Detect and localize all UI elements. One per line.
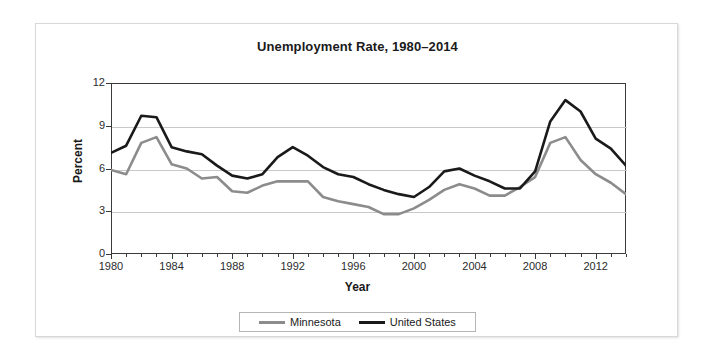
x-tick-mark [444, 254, 445, 257]
x-tick-mark [202, 254, 203, 257]
x-tick-mark [611, 254, 612, 257]
x-tick-mark [353, 254, 354, 259]
x-tick-mark [278, 254, 279, 257]
x-tick-mark [596, 254, 597, 259]
x-tick-mark [293, 254, 294, 259]
legend-item[interactable]: United States [359, 316, 456, 328]
x-tick-label: 2004 [455, 260, 495, 272]
legend-label: Minnesota [290, 316, 341, 328]
x-tick-mark [126, 254, 127, 257]
x-tick-label: 1996 [333, 260, 373, 272]
chart-title: Unemployment Rate, 1980–2014 [36, 39, 679, 54]
x-tick-mark [414, 254, 415, 259]
x-tick-mark [111, 254, 112, 259]
legend-swatch-icon [259, 321, 285, 324]
x-tick-mark [550, 254, 551, 257]
x-tick-mark [384, 254, 385, 257]
y-tick-label: 12 [79, 76, 105, 88]
legend-swatch-icon [359, 321, 385, 324]
x-tick-mark [217, 254, 218, 257]
y-axis-title: Percent [71, 111, 85, 211]
x-axis-title: Year [36, 280, 679, 294]
x-tick-mark [308, 254, 309, 257]
x-tick-mark [262, 254, 263, 257]
plot-wrapper [111, 83, 626, 254]
x-tick-mark [399, 254, 400, 257]
x-tick-mark [369, 254, 370, 257]
x-tick-mark [475, 254, 476, 259]
x-axis-ticks: 198019841988199219962000200420082012 [111, 254, 626, 276]
series-lines [111, 83, 626, 254]
x-tick-label: 1992 [273, 260, 313, 272]
x-tick-mark [323, 254, 324, 257]
x-tick-mark [187, 254, 188, 257]
chart-figure: Unemployment Rate, 1980–2014 036912 Perc… [35, 23, 678, 337]
legend-item[interactable]: Minnesota [259, 316, 341, 328]
x-tick-mark [247, 254, 248, 257]
x-tick-label: 1980 [91, 260, 131, 272]
x-tick-mark [459, 254, 460, 257]
x-tick-mark [429, 254, 430, 257]
series-line [111, 137, 626, 214]
x-tick-label: 2008 [515, 260, 555, 272]
x-tick-mark [490, 254, 491, 257]
x-tick-label: 2000 [394, 260, 434, 272]
x-tick-mark [581, 254, 582, 257]
chart-legend: MinnesotaUnited States [239, 312, 476, 332]
legend-label: United States [390, 316, 456, 328]
x-tick-mark [141, 254, 142, 257]
x-tick-mark [172, 254, 173, 259]
x-tick-label: 2012 [576, 260, 616, 272]
x-tick-mark [626, 254, 627, 257]
x-tick-label: 1988 [212, 260, 252, 272]
x-tick-mark [535, 254, 536, 259]
x-tick-mark [232, 254, 233, 259]
y-tick-label: 0 [79, 247, 105, 259]
x-tick-mark [156, 254, 157, 257]
x-tick-mark [520, 254, 521, 257]
x-tick-mark [338, 254, 339, 257]
x-tick-mark [565, 254, 566, 257]
x-tick-label: 1984 [152, 260, 192, 272]
x-tick-mark [505, 254, 506, 257]
